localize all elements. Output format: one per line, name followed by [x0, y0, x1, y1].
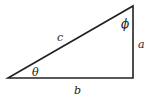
- triangle-shape: [8, 6, 133, 78]
- label-hypotenuse-c: c: [57, 31, 63, 44]
- label-angle-theta: θ: [32, 66, 39, 79]
- right-triangle-diagram: c ϕ a θ b: [0, 0, 151, 98]
- label-side-b: b: [74, 84, 81, 97]
- label-side-a: a: [138, 38, 145, 51]
- label-angle-phi: ϕ: [121, 17, 129, 31]
